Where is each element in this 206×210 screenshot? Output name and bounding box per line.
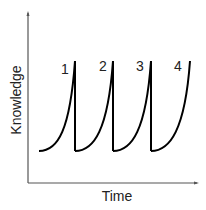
y-axis-label: Knowledge [8, 62, 24, 138]
y-axis-arrow-icon [27, 11, 30, 16]
label-3: 3 [136, 58, 144, 74]
curve-segment-1 [39, 61, 75, 151]
x-axis-arrow-icon [194, 182, 199, 185]
label-2: 2 [99, 58, 107, 74]
curve-segment-3 [113, 61, 151, 151]
label-1: 1 [61, 61, 69, 77]
curve-segment-4 [151, 61, 190, 151]
diagram-canvas [0, 0, 206, 210]
label-4: 4 [174, 58, 182, 74]
curve-segment-2 [75, 61, 113, 151]
x-axis-label: Time [95, 188, 139, 204]
